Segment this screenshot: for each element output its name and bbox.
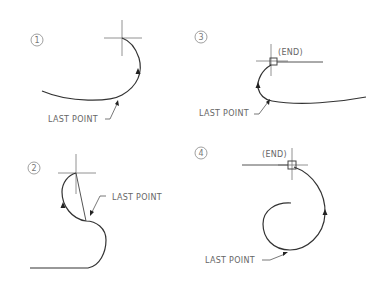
- arc-diagram: 1 LAST POINT 3 (END) LAST POINT: [0, 0, 377, 284]
- arc-curve: [30, 173, 106, 268]
- snap-label: (END): [262, 150, 287, 159]
- last-point-label: LAST POINT: [48, 115, 98, 124]
- panel-number-badge: 1: [31, 34, 43, 46]
- panel-3: 3 (END) LAST POINT: [195, 31, 366, 118]
- panel-2: 2 LAST POINT: [28, 154, 162, 268]
- panel-number: 4: [198, 149, 203, 158]
- panel-number-badge: 2: [28, 162, 40, 174]
- panel-1: 1 LAST POINT: [31, 20, 142, 124]
- leader-arrow-icon: [90, 210, 94, 216]
- last-point-leader: [105, 104, 117, 119]
- direction-arrow-icon: [323, 209, 328, 215]
- panel-number-badge: 4: [195, 147, 207, 159]
- arc-curve: [42, 38, 140, 100]
- chord-line: [76, 173, 86, 221]
- last-point-leader: [254, 102, 268, 114]
- panel-4: 4 (END) LAST POINT: [195, 147, 328, 265]
- leader-arrow-icon: [283, 252, 288, 256]
- last-point-leader: [262, 254, 285, 260]
- leader-arrow-icon: [115, 100, 119, 106]
- arc-curve: [263, 167, 325, 250]
- crosshair-cursor-icon: [58, 154, 96, 194]
- direction-arrow-icon: [256, 82, 261, 88]
- last-point-label: LAST POINT: [205, 256, 255, 265]
- panel-number-badge: 3: [195, 31, 207, 43]
- last-point-label: LAST POINT: [199, 109, 249, 118]
- last-point-leader: [92, 196, 106, 212]
- snap-label: (END): [278, 48, 303, 57]
- arc-curve: [258, 65, 366, 103]
- last-point-label: LAST POINT: [112, 193, 162, 202]
- panel-number: 3: [198, 33, 203, 42]
- panel-number: 2: [31, 164, 36, 173]
- panel-number: 1: [34, 36, 39, 45]
